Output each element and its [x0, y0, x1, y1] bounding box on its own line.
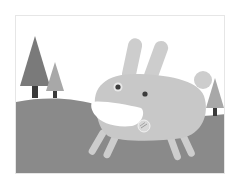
rabbit-illustration	[16, 16, 225, 174]
illustration-frame	[15, 15, 225, 174]
rabbit-tail	[194, 71, 212, 89]
rabbit-eye-left	[115, 84, 120, 89]
rabbit-eye-right	[142, 91, 147, 96]
